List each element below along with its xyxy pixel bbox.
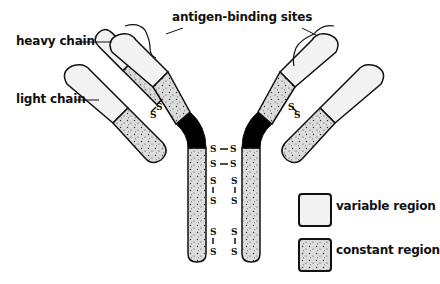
light-chain-label: light chain — [16, 92, 85, 106]
heavy-chain-right-variable — [280, 34, 338, 87]
heavy-chain-stem-right — [242, 148, 260, 262]
heavy-chain-stem-left — [188, 148, 206, 262]
disulfide-bonds — [151, 107, 297, 244]
light-chain-left-constant — [113, 108, 166, 163]
light-chain-right-variable — [320, 65, 384, 123]
heavy-chain-label: heavy chain — [16, 34, 95, 48]
antigen-binding-sites-label: antigen-binding sites — [172, 10, 312, 24]
legend-variable-label: variable region — [336, 199, 436, 213]
legend-variable-swatch — [299, 194, 331, 226]
legend-constant-label: constant region — [336, 243, 440, 257]
legend-constant-swatch — [299, 239, 331, 271]
light-chain-right-constant — [282, 108, 335, 163]
